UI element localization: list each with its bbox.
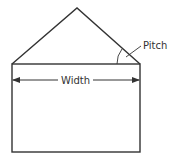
pitch-leader-line	[126, 46, 141, 57]
pitch-label: Pitch	[143, 40, 167, 51]
house-diagram: Width Pitch	[0, 0, 175, 155]
diagram-svg: Width Pitch	[0, 0, 175, 155]
pitch-angle-arc	[117, 49, 122, 64]
roof-outline	[12, 8, 140, 64]
width-label: Width	[61, 75, 90, 86]
